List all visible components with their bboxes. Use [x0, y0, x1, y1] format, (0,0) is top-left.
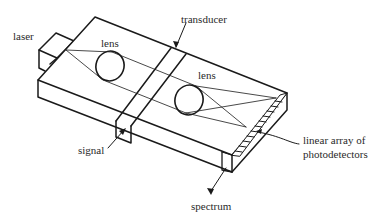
- substrate-slab: [38, 17, 287, 172]
- transducer-arrowhead: [173, 41, 179, 48]
- label-spectrum: spectrum: [191, 200, 231, 212]
- label-laser: laser: [13, 30, 34, 42]
- spectrum-arrowhead: [207, 188, 214, 195]
- label-signal: signal: [78, 144, 104, 156]
- spectrum-analyzer-diagram: [0, 0, 383, 221]
- label-array-line2: photodetectors: [303, 148, 368, 160]
- label-lens-1: lens: [101, 37, 119, 49]
- label-transducer: transducer: [181, 13, 227, 25]
- label-lens-2: lens: [198, 69, 216, 81]
- label-array-line1: linear array of: [303, 134, 365, 146]
